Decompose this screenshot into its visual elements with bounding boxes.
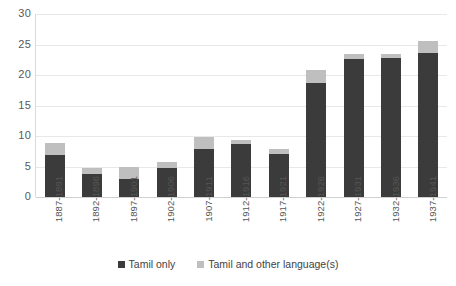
x-axis-tick: 1927-1931 <box>335 197 372 255</box>
x-axis-tick-label: 1897-1901 <box>129 176 139 222</box>
legend-item[interactable]: Tamil only <box>118 259 176 270</box>
bar-group[interactable] <box>410 14 447 197</box>
y-axis-tick-label: 20 <box>1 69 31 80</box>
x-axis-tick: 1922-1926 <box>297 197 334 255</box>
y-axis-tick-label: 25 <box>1 39 31 50</box>
x-axis-tick-label: 1902-1906 <box>166 176 176 222</box>
bar-segment-tamil-and-other-language[interactable] <box>418 41 438 53</box>
x-axis-tick-label: 1912-1916 <box>241 176 251 222</box>
legend-swatch-icon <box>197 261 204 268</box>
y-axis-tick-label: 30 <box>1 8 31 19</box>
bars-layer <box>36 14 447 197</box>
y-axis-tick-label: 10 <box>1 130 31 141</box>
x-axis-tick: 1912-1916 <box>222 197 259 255</box>
chart-legend: Tamil onlyTamil and other language(s) <box>0 259 456 270</box>
x-axis-tick: 1932-1936 <box>372 197 409 255</box>
y-axis-tick-label: 0 <box>1 191 31 202</box>
x-axis-tick-label: 1887-1891 <box>54 176 64 222</box>
legend-item[interactable]: Tamil and other language(s) <box>197 259 338 270</box>
legend-label: Tamil only <box>129 259 176 270</box>
legend-swatch-icon <box>118 261 125 268</box>
x-axis-tick: 1907-1911 <box>185 197 222 255</box>
bar-segment-tamil-and-other-language[interactable] <box>306 70 326 83</box>
bar-group[interactable] <box>260 14 297 197</box>
x-axis-tick-label: 1932-1936 <box>391 176 401 222</box>
x-axis-tick-label: 1907-1911 <box>204 176 214 222</box>
x-axis-tick: 1897-1901 <box>110 197 147 255</box>
bar-group[interactable] <box>335 14 372 197</box>
x-axis-tick-label: 1927-1931 <box>353 176 363 222</box>
x-axis-tick: 1917-1921 <box>260 197 297 255</box>
y-axis: 302520151050 <box>0 14 31 197</box>
bar-stack[interactable] <box>418 41 438 197</box>
bar-group[interactable] <box>36 14 73 197</box>
x-axis-tick: 1937-1941 <box>410 197 447 255</box>
plot-area <box>35 14 447 197</box>
bar-group[interactable] <box>185 14 222 197</box>
bar-group[interactable] <box>73 14 110 197</box>
bar-group[interactable] <box>298 14 335 197</box>
x-axis: 1887-18911892-18961897-19011902-19061907… <box>35 197 447 255</box>
x-axis-tick-label: 1922-1926 <box>316 176 326 222</box>
bar-group[interactable] <box>148 14 185 197</box>
stacked-bar-chart: 302520151050 1887-18911892-18961897-1901… <box>0 0 456 286</box>
y-axis-tick-label: 5 <box>1 161 31 172</box>
bar-segment-tamil-and-other-language[interactable] <box>45 143 65 155</box>
x-axis-tick: 1892-1896 <box>72 197 109 255</box>
bar-group[interactable] <box>223 14 260 197</box>
x-axis-tick-label: 1917-1921 <box>278 176 288 222</box>
x-axis-tick-label: 1892-1896 <box>91 176 101 222</box>
bar-group[interactable] <box>372 14 409 197</box>
y-axis-tick-label: 15 <box>1 100 31 111</box>
legend-label: Tamil and other language(s) <box>208 259 338 270</box>
bar-group[interactable] <box>111 14 148 197</box>
x-axis-tick-label: 1937-1941 <box>428 176 438 222</box>
x-axis-tick: 1902-1906 <box>147 197 184 255</box>
bar-segment-tamil-and-other-language[interactable] <box>194 137 214 149</box>
x-axis-tick: 1887-1891 <box>35 197 72 255</box>
